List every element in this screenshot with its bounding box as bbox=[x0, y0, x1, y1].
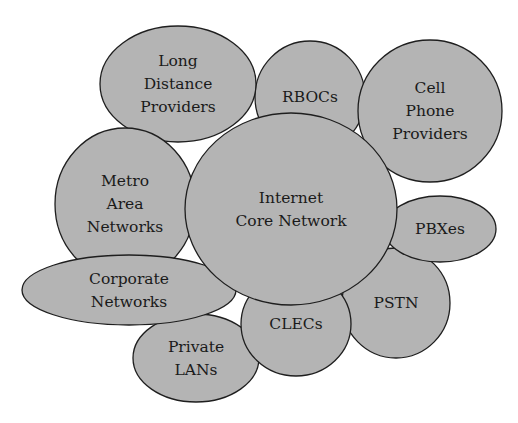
node-clecs-label: CLECs bbox=[269, 315, 322, 333]
node-metro-area-networks-label: Networks bbox=[87, 218, 163, 236]
node-corporate-networks-bubble bbox=[22, 255, 236, 325]
node-rbocs-label: RBOCs bbox=[282, 88, 338, 106]
node-corporate-networks: CorporateNetworks bbox=[22, 255, 236, 325]
node-long-distance-providers-label: Distance bbox=[144, 75, 213, 93]
node-private-lans-bubble bbox=[133, 314, 259, 402]
node-long-distance-providers: LongDistanceProviders bbox=[100, 26, 256, 142]
node-cell-phone-providers-label: Phone bbox=[406, 102, 455, 120]
node-private-lans: PrivateLANs bbox=[133, 314, 259, 402]
node-corporate-networks-label: Networks bbox=[91, 293, 167, 311]
node-long-distance-providers-label: Providers bbox=[140, 98, 215, 116]
network-bubble-diagram: RBOCsLongDistanceProvidersCellPhoneProvi… bbox=[0, 0, 518, 423]
node-pstn-label: PSTN bbox=[374, 294, 419, 312]
node-cell-phone-providers-label: Providers bbox=[392, 125, 467, 143]
node-pbxes: PBXes bbox=[384, 196, 496, 262]
node-internet-core-network-bubble bbox=[185, 113, 397, 305]
node-metro-area-networks-label: Metro bbox=[101, 172, 149, 190]
node-cell-phone-providers-label: Cell bbox=[415, 79, 446, 97]
node-private-lans-label: Private bbox=[168, 338, 224, 356]
node-long-distance-providers-label: Long bbox=[158, 52, 198, 70]
node-corporate-networks-label: Corporate bbox=[89, 270, 169, 288]
node-private-lans-label: LANs bbox=[174, 361, 217, 379]
node-internet-core-network-label: Core Network bbox=[235, 212, 347, 230]
node-pbxes-label: PBXes bbox=[415, 220, 465, 238]
node-metro-area-networks-label: Area bbox=[105, 195, 143, 213]
node-internet-core-network-label: Internet bbox=[259, 189, 324, 207]
node-internet-core-network: InternetCore Network bbox=[185, 113, 397, 305]
